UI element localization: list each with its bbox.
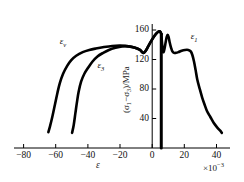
y-axis-ticks — [152, 30, 156, 119]
x-axis-ticks — [24, 144, 217, 148]
x-tick-label-7: 40 — [212, 151, 222, 161]
chart-figure: −80 −60 −40 −20 0 20 40 40 80 120 160 ε … — [0, 0, 244, 182]
x-tick-label-2: −60 — [48, 151, 63, 161]
curve-label-epsilon-1: ε1 — [191, 32, 198, 43]
x-axis-title: ε — [96, 160, 100, 170]
curve-label-e3-sub: 3 — [101, 64, 104, 71]
curve-label-epsilon-v: εv — [60, 37, 66, 48]
x-tick-label-1: −80 — [16, 151, 31, 161]
y-axis-title-suffix: )/MPa — [121, 67, 131, 90]
x-tick-label-5: 0 — [150, 151, 155, 161]
x-axis-exponent: ×10−3 — [203, 161, 224, 173]
x-exponent-base: ×10 — [203, 163, 217, 173]
curve-label-e1-sub: 1 — [194, 36, 197, 43]
y-axis-title-prefix: (σ — [121, 106, 131, 114]
x-exponent-power: −3 — [217, 161, 224, 168]
x-tick-label-6: 20 — [180, 151, 190, 161]
y-tick-label-4: 160 — [131, 25, 149, 35]
y-axis-title-sub1: 1 — [125, 102, 132, 105]
y-axis-title-mid: −σ — [121, 92, 131, 102]
curve-label-epsilon-3: ε3 — [98, 61, 105, 72]
y-tick-label-3: 120 — [131, 55, 149, 65]
y-axis-title-sub2: 3 — [125, 89, 132, 92]
curve-epsilon-1 — [161, 34, 222, 133]
y-tick-label-1: 40 — [131, 114, 149, 124]
curve-label-ev-sub: v — [63, 40, 66, 47]
x-tick-label-4: −20 — [113, 151, 128, 161]
x-tick-label-3: −40 — [80, 151, 95, 161]
y-axis-title: (σ1−σ3)/MPa — [119, 52, 133, 128]
